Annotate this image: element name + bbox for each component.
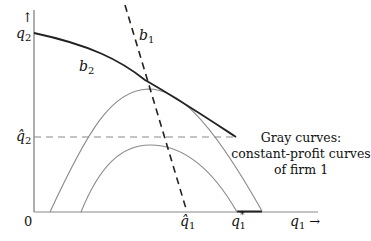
q1-hat-label: q̂1	[180, 213, 195, 231]
caption-line-3: of firm 1	[274, 162, 328, 177]
y-axis-arrow: ↑	[22, 10, 33, 25]
b2-label: b2	[79, 58, 94, 76]
diagram-canvas: ↑ q2 q̂2 0 q̂1 q*1 q1→ b1 b2 Gray curves…	[0, 0, 371, 241]
b1-label: b1	[139, 27, 154, 45]
isoprofit-curve-outer	[50, 89, 262, 212]
b2-curve	[34, 33, 236, 137]
b1-curve	[125, 5, 187, 212]
caption-line-2: constant-profit curves	[231, 146, 371, 161]
q1-star-label: q*1	[231, 210, 246, 231]
isoprofit-curve-inner	[81, 145, 237, 212]
origin-label: 0	[24, 214, 32, 229]
y-axis-label: q2	[16, 25, 31, 43]
q2-hat-label: q̂2	[16, 128, 31, 146]
x-axis-label: q1→	[290, 213, 320, 231]
caption-line-1: Gray curves:	[261, 130, 342, 145]
